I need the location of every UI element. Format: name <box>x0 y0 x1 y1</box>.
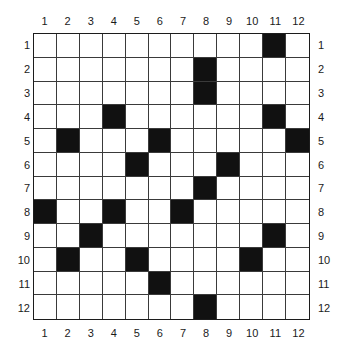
grid-cell-r3-c7[interactable] <box>171 82 194 106</box>
grid-cell-r10-c1[interactable] <box>34 248 57 272</box>
grid-cell-r6-c8[interactable] <box>194 153 217 177</box>
grid-cell-r12-c8[interactable] <box>194 295 217 319</box>
grid-cell-r10-c9[interactable] <box>217 248 240 272</box>
grid-cell-r5-c12[interactable] <box>286 129 309 153</box>
grid-cell-r1-c6[interactable] <box>149 34 172 58</box>
grid-cell-r4-c12[interactable] <box>286 105 309 129</box>
grid-cell-r9-c1[interactable] <box>34 224 57 248</box>
grid-cell-r10-c12[interactable] <box>286 248 309 272</box>
grid-cell-r3-c11[interactable] <box>263 82 286 106</box>
grid-cell-r4-c6[interactable] <box>149 105 172 129</box>
grid-cell-r3-c9[interactable] <box>217 82 240 106</box>
grid-cell-r11-c12[interactable] <box>286 272 309 296</box>
grid-cell-r1-c1[interactable] <box>34 34 57 58</box>
grid-cell-r12-c7[interactable] <box>171 295 194 319</box>
grid-cell-r8-c2[interactable] <box>57 200 80 224</box>
puzzle-grid[interactable] <box>33 33 310 320</box>
grid-cell-r11-c1[interactable] <box>34 272 57 296</box>
grid-cell-r4-c7[interactable] <box>171 105 194 129</box>
grid-cell-r3-c3[interactable] <box>80 82 103 106</box>
grid-cell-r7-c9[interactable] <box>217 177 240 201</box>
grid-cell-r6-c1[interactable] <box>34 153 57 177</box>
grid-cell-r11-c2[interactable] <box>57 272 80 296</box>
grid-cell-r12-c10[interactable] <box>240 295 263 319</box>
grid-cell-r4-c11[interactable] <box>263 105 286 129</box>
grid-cell-r7-c1[interactable] <box>34 177 57 201</box>
grid-cell-r10-c6[interactable] <box>149 248 172 272</box>
grid-cell-r9-c7[interactable] <box>171 224 194 248</box>
grid-cell-r7-c8[interactable] <box>194 177 217 201</box>
grid-cell-r11-c10[interactable] <box>240 272 263 296</box>
grid-cell-r12-c12[interactable] <box>286 295 309 319</box>
grid-cell-r7-c7[interactable] <box>171 177 194 201</box>
grid-cell-r12-c9[interactable] <box>217 295 240 319</box>
grid-cell-r5-c8[interactable] <box>194 129 217 153</box>
grid-cell-r9-c2[interactable] <box>57 224 80 248</box>
grid-cell-r8-c11[interactable] <box>263 200 286 224</box>
grid-cell-r10-c5[interactable] <box>126 248 149 272</box>
grid-cell-r2-c1[interactable] <box>34 58 57 82</box>
grid-cell-r1-c4[interactable] <box>103 34 126 58</box>
grid-cell-r6-c7[interactable] <box>171 153 194 177</box>
grid-cell-r4-c3[interactable] <box>80 105 103 129</box>
grid-cell-r2-c11[interactable] <box>263 58 286 82</box>
grid-cell-r2-c3[interactable] <box>80 58 103 82</box>
grid-cell-r3-c2[interactable] <box>57 82 80 106</box>
grid-cell-r4-c9[interactable] <box>217 105 240 129</box>
grid-cell-r5-c3[interactable] <box>80 129 103 153</box>
grid-cell-r11-c3[interactable] <box>80 272 103 296</box>
grid-cell-r6-c3[interactable] <box>80 153 103 177</box>
grid-cell-r3-c4[interactable] <box>103 82 126 106</box>
grid-cell-r2-c4[interactable] <box>103 58 126 82</box>
grid-cell-r2-c6[interactable] <box>149 58 172 82</box>
grid-cell-r3-c10[interactable] <box>240 82 263 106</box>
grid-cell-r4-c5[interactable] <box>126 105 149 129</box>
grid-cell-r7-c6[interactable] <box>149 177 172 201</box>
grid-cell-r11-c7[interactable] <box>171 272 194 296</box>
grid-cell-r6-c2[interactable] <box>57 153 80 177</box>
grid-cell-r8-c6[interactable] <box>149 200 172 224</box>
grid-cell-r7-c3[interactable] <box>80 177 103 201</box>
grid-cell-r1-c11[interactable] <box>263 34 286 58</box>
grid-cell-r1-c8[interactable] <box>194 34 217 58</box>
grid-cell-r2-c10[interactable] <box>240 58 263 82</box>
grid-cell-r11-c11[interactable] <box>263 272 286 296</box>
grid-cell-r4-c8[interactable] <box>194 105 217 129</box>
grid-cell-r2-c9[interactable] <box>217 58 240 82</box>
grid-cell-r4-c4[interactable] <box>103 105 126 129</box>
grid-cell-r7-c12[interactable] <box>286 177 309 201</box>
grid-cell-r6-c6[interactable] <box>149 153 172 177</box>
grid-cell-r1-c7[interactable] <box>171 34 194 58</box>
grid-cell-r10-c10[interactable] <box>240 248 263 272</box>
grid-cell-r11-c8[interactable] <box>194 272 217 296</box>
grid-cell-r8-c9[interactable] <box>217 200 240 224</box>
grid-cell-r3-c8[interactable] <box>194 82 217 106</box>
grid-cell-r9-c8[interactable] <box>194 224 217 248</box>
grid-cell-r12-c11[interactable] <box>263 295 286 319</box>
grid-cell-r2-c5[interactable] <box>126 58 149 82</box>
grid-cell-r9-c12[interactable] <box>286 224 309 248</box>
grid-cell-r1-c5[interactable] <box>126 34 149 58</box>
grid-cell-r9-c5[interactable] <box>126 224 149 248</box>
grid-cell-r2-c7[interactable] <box>171 58 194 82</box>
grid-cell-r8-c10[interactable] <box>240 200 263 224</box>
grid-cell-r7-c5[interactable] <box>126 177 149 201</box>
grid-cell-r10-c7[interactable] <box>171 248 194 272</box>
grid-cell-r7-c10[interactable] <box>240 177 263 201</box>
grid-cell-r1-c10[interactable] <box>240 34 263 58</box>
grid-cell-r11-c6[interactable] <box>149 272 172 296</box>
grid-cell-r3-c1[interactable] <box>34 82 57 106</box>
grid-cell-r12-c3[interactable] <box>80 295 103 319</box>
grid-cell-r12-c4[interactable] <box>103 295 126 319</box>
grid-cell-r10-c3[interactable] <box>80 248 103 272</box>
grid-cell-r3-c6[interactable] <box>149 82 172 106</box>
grid-cell-r4-c2[interactable] <box>57 105 80 129</box>
grid-cell-r9-c4[interactable] <box>103 224 126 248</box>
grid-cell-r9-c3[interactable] <box>80 224 103 248</box>
grid-cell-r8-c4[interactable] <box>103 200 126 224</box>
grid-cell-r1-c3[interactable] <box>80 34 103 58</box>
grid-cell-r10-c11[interactable] <box>263 248 286 272</box>
grid-cell-r1-c9[interactable] <box>217 34 240 58</box>
grid-cell-r5-c11[interactable] <box>263 129 286 153</box>
grid-cell-r9-c11[interactable] <box>263 224 286 248</box>
